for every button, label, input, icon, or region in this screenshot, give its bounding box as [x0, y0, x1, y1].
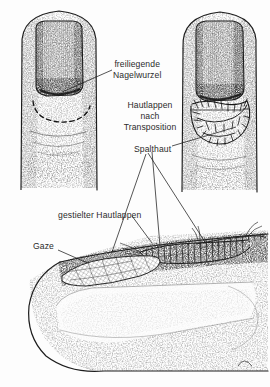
label-pedicled-flap: gestielter Hautlappen: [58, 210, 141, 221]
label-skin-flap-line3: Transposition: [113, 122, 187, 133]
finger-preoperative-group: [18, 8, 100, 190]
label-skin-flap-transposition: Hautlappen nach Transposition: [113, 100, 187, 133]
label-split-thickness-graft: Spalthaut: [134, 144, 171, 155]
finger-lateral-section-group: [26, 222, 270, 374]
finger-postoperative-group: [179, 9, 261, 193]
label-exposed-nail-root: freiliegende Nagelwurzel: [113, 59, 161, 81]
label-exposed-nail-root-line1: freiliegende: [113, 59, 161, 70]
medical-illustration-figure: freiliegende Nagelwurzel Hautlappen nach…: [0, 0, 270, 387]
leader-split-graft-c: [112, 154, 146, 252]
label-skin-flap-line1: Hautlappen: [113, 100, 187, 111]
label-skin-flap-line2: nach: [113, 111, 187, 122]
label-exposed-nail-root-line2: Nagelwurzel: [113, 70, 161, 81]
label-gauze: Gaze: [33, 241, 54, 252]
